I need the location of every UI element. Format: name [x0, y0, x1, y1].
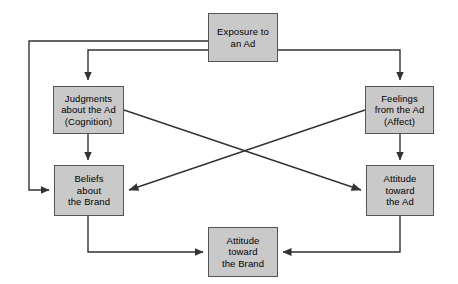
node-label-line: toward — [385, 185, 414, 197]
node-beliefs-about-the-brand: Beliefs about the Brand — [54, 165, 124, 216]
edge-feelings-to-beliefs — [129, 110, 365, 190]
node-label-line: Attitude — [383, 173, 416, 185]
node-label-line: the Brand — [222, 258, 264, 270]
node-label-line: the Ad — [386, 196, 414, 208]
node-label-line: Attitude — [226, 235, 259, 247]
edge-exposure-to-feelings — [278, 50, 400, 80]
node-attitude-toward-the-ad: Attitude toward the Ad — [366, 165, 434, 216]
node-attitude-toward-the-brand: Attitude toward the Brand — [208, 227, 278, 277]
node-exposure-to-an-ad: Exposure to an Ad — [208, 13, 278, 62]
node-label-line: (Cognition) — [65, 116, 113, 128]
node-label-line: from the Ad — [375, 104, 425, 116]
node-label-line: an Ad — [231, 38, 256, 50]
node-label-line: the Brand — [68, 196, 110, 208]
edge-judgments-to-attitude-ad — [124, 110, 361, 190]
node-label-line: (Affect) — [384, 116, 415, 128]
edge-beliefs-to-attitude-brand — [88, 216, 203, 252]
node-label-line: Feelings — [381, 93, 418, 105]
flow-diagram: Exposure to an Ad Judgments about the Ad… — [0, 0, 458, 284]
node-label-line: Exposure to — [217, 26, 269, 38]
node-label-line: Beliefs — [74, 173, 103, 185]
node-label-line: about — [77, 185, 101, 197]
edge-exposure-to-judgments — [88, 50, 208, 80]
node-feelings-from-the-ad: Feelings from the Ad (Affect) — [365, 86, 434, 134]
node-label-line: toward — [228, 246, 257, 258]
node-label-line: Judgments — [65, 93, 112, 105]
node-label-line: about the Ad — [61, 104, 116, 116]
node-judgments-about-the-ad: Judgments about the Ad (Cognition) — [53, 86, 124, 134]
edge-attitude-ad-to-attitude-brand — [283, 216, 400, 252]
